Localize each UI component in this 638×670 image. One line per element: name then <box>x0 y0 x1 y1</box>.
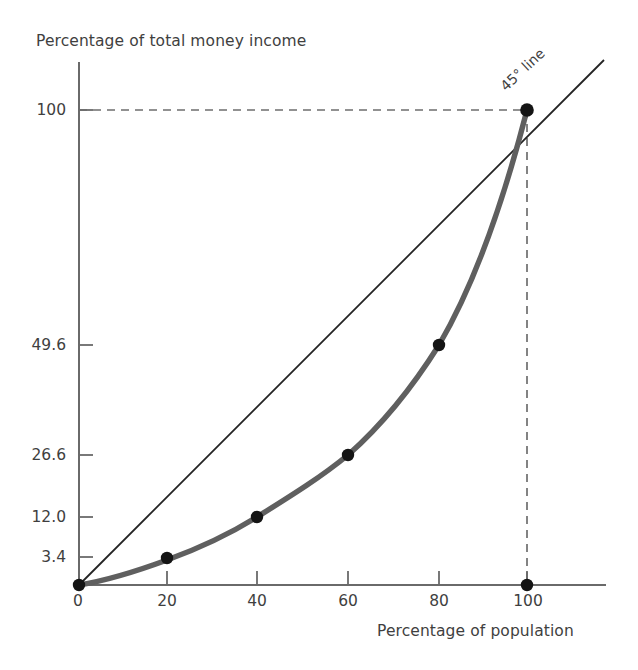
data-point-60 <box>342 449 354 461</box>
y-axis-title: Percentage of total money income <box>36 32 306 50</box>
y-tick-label-12-0: 12.0 <box>14 508 66 526</box>
equality-line-45deg <box>79 60 604 585</box>
data-point-80 <box>433 339 445 351</box>
data-point-100 <box>520 103 534 117</box>
data-point-0 <box>73 579 85 591</box>
x-tick-label-60: 60 <box>338 592 358 610</box>
y-tick-label-26-6: 26.6 <box>14 446 66 464</box>
x-axis-title: Percentage of population <box>377 622 574 640</box>
lorenz-curve-path <box>79 110 527 585</box>
data-point-20 <box>161 552 173 564</box>
x-tick-label-20: 20 <box>157 592 177 610</box>
x-tick-label-80: 80 <box>429 592 449 610</box>
y-tick-label-49-6: 49.6 <box>14 336 66 354</box>
x-tick-label-40: 40 <box>247 592 267 610</box>
y-tick-label-100: 100 <box>14 101 66 119</box>
y-tick-label-3-4: 3.4 <box>14 548 66 566</box>
plot-area <box>0 0 638 670</box>
x-tick-label-0: 0 <box>73 592 83 610</box>
data-point-40 <box>251 511 263 523</box>
x-axis-endpoint-marker-100 <box>521 579 533 591</box>
x-tick-label-100: 100 <box>513 592 543 610</box>
lorenz-curve-figure: Percentage of total money income Percent… <box>0 0 638 670</box>
